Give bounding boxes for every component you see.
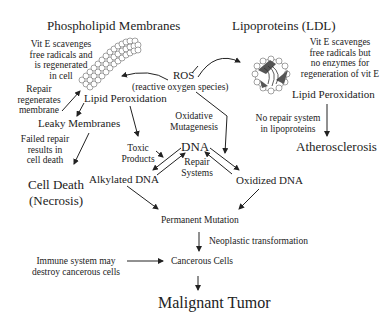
repair-regenerates-note: Repair regenerates membrane (14, 84, 64, 116)
cell-death-necrosis: Cell Death (Necrosis) (16, 177, 96, 209)
oxidative-damage-diagram: Phospholipid Membranes Lipoproteins (LDL… (0, 0, 390, 324)
permanent-mutation: Permanent Mutation (161, 215, 239, 226)
lipid-peroxidation-membrane: Lipid Peroxidation (84, 93, 167, 104)
ros-full-name: (reactive oxygen species) (132, 82, 229, 93)
ros-label: ROS (173, 70, 194, 81)
no-repair-note: No repair system in lipoproteins (250, 113, 326, 134)
alkylated-dna: Alkylated DNA (89, 174, 159, 185)
neoplastic-transformation: Neoplastic transformation (209, 236, 308, 247)
lipid-peroxidation-ldl: Lipid Peroxidation (292, 89, 375, 100)
oxidized-dna: Oxidized DNA (236, 175, 303, 186)
lipoproteins-title: Lipoproteins (LDL) (232, 19, 336, 32)
leaky-membranes: Leaky Membranes (38, 118, 120, 129)
cancerous-cells: Cancerous Cells (171, 256, 233, 267)
ldl-particle-icon (252, 56, 290, 94)
failed-repair-note: Failed repair results in cell death (14, 134, 76, 166)
repair-systems: Repair Systems (180, 157, 214, 178)
vit-e-ldl-note: Vit E scavenges free radicals but no enz… (292, 37, 388, 79)
vit-e-membrane-note: Vit E scavenges free radicals and is reg… (26, 39, 96, 81)
immune-system-note: Immune system may destroy cancerous cell… (28, 256, 124, 277)
dna-label: DNA (181, 140, 209, 153)
atherosclerosis: Atherosclerosis (296, 140, 377, 153)
malignant-tumor: Malignant Tumor (158, 295, 270, 311)
oxidative-mutagenesis: Oxidative Mutagenesis (166, 111, 222, 132)
phospholipid-membranes-title: Phospholipid Membranes (47, 19, 180, 32)
toxic-products: Toxic Products (118, 143, 158, 164)
